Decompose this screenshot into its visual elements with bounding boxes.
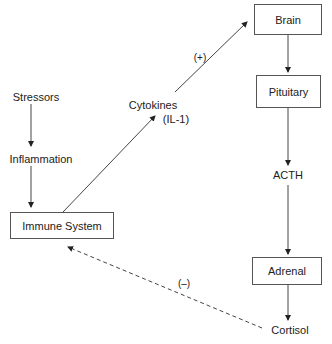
node-cytokines: Cytokines [129,99,177,111]
node-acth: ACTH [273,169,303,181]
node-pituitary: Pituitary [256,75,321,108]
node-brain-label: Brain [275,14,301,26]
node-pituitary-label: Pituitary [269,86,309,98]
node-cortisol: Cortisol [271,324,308,336]
node-stressors: Stressors [13,91,59,103]
node-immune-system-label: Immune System [22,220,101,232]
arrow-cytokines-to-brain [175,22,247,92]
node-adrenal-label: Adrenal [268,265,306,277]
node-cytokines-il1: (IL-1) [163,113,189,125]
edge-label-negative: (–) [178,278,190,289]
node-adrenal: Adrenal [252,257,322,285]
edge-label-positive: (+) [194,52,207,63]
node-brain: Brain [254,4,322,35]
node-immune-system: Immune System [10,212,114,239]
node-inflammation: Inflammation [10,153,73,165]
arrow-immune-to-cytokines [63,116,155,212]
arrow-cortisol-to-immune-dashed [68,247,262,328]
